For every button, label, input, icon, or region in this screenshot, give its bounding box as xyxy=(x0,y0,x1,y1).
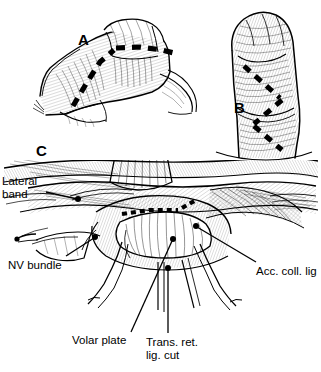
label-lateral-band: Lateral band xyxy=(2,175,37,200)
leader-dot-lateral-band xyxy=(75,196,81,202)
leader-dot-volar-plate xyxy=(170,236,176,242)
leader-dot-trans-ret-lig-cut xyxy=(165,265,171,271)
label-acc-coll-lig: Acc. coll. lig xyxy=(256,265,317,278)
label-trans-ret-lig-cut: Trans. ret. lig. cut xyxy=(146,336,198,361)
panel-letter-c: C xyxy=(36,143,47,158)
panel-letter-b: B xyxy=(234,100,245,115)
label-lateral-band-line-1: Lateral xyxy=(2,175,37,188)
surgical-illustration-figure: A B C Lateral band NV bundle Acc. coll. … xyxy=(0,0,321,372)
label-volar-plate: Volar plate xyxy=(72,334,126,347)
panel-letter-a: A xyxy=(78,32,89,47)
panel-a-drawing xyxy=(33,19,197,127)
label-nv-bundle: NV bundle xyxy=(8,259,62,272)
label-volar-plate-line-1: Volar plate xyxy=(72,334,126,347)
label-trans-ret-lig-cut-line-1: Trans. ret. xyxy=(146,336,198,349)
label-trans-ret-lig-cut-line-2: lig. cut xyxy=(146,349,198,362)
illustration-canvas xyxy=(0,0,321,372)
leader-dot-acc-coll-lig xyxy=(193,223,199,229)
label-nv-bundle-line-1: NV bundle xyxy=(8,259,62,272)
label-lateral-band-line-2: band xyxy=(2,188,37,201)
label-acc-coll-lig-line-1: Acc. coll. lig xyxy=(256,265,317,278)
leader-nv-bundle xyxy=(66,238,94,256)
panel-b-drawing xyxy=(216,12,312,160)
leader-dot-nv-bundle xyxy=(92,234,98,240)
